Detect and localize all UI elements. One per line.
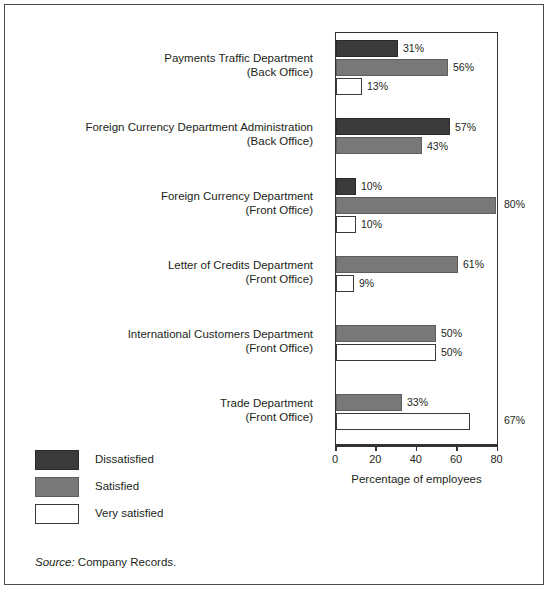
bar-row: 33% xyxy=(336,394,497,411)
category-label-line1: International Customers Department xyxy=(128,328,313,340)
x-axis-tick-label: 0 xyxy=(332,453,338,465)
source-text: Company Records. xyxy=(78,556,176,568)
bar-satisfied[interactable] xyxy=(336,256,458,273)
category-label: Foreign Currency Department(Front Office… xyxy=(5,189,313,217)
bar-verysatisfied[interactable] xyxy=(336,275,354,292)
category-label: Letter of Credits Department(Front Offic… xyxy=(5,258,313,286)
bar-dissatisfied[interactable] xyxy=(336,40,398,57)
bar-value-label: 80% xyxy=(504,199,525,210)
category-label: International Customers Department(Front… xyxy=(5,327,313,355)
bar-satisfied[interactable] xyxy=(336,394,402,411)
bar-value-label: 13% xyxy=(367,81,388,92)
category-label: Foreign Currency Department Administrati… xyxy=(5,120,313,148)
bar-value-label: 31% xyxy=(403,43,424,54)
category-label-line1: Trade Department xyxy=(220,397,313,409)
bar-verysatisfied[interactable] xyxy=(336,216,356,233)
bar-value-label: 50% xyxy=(441,347,462,358)
x-axis-tick xyxy=(497,445,499,451)
category-label-line2: (Back Office) xyxy=(5,134,313,148)
bar-value-label: 50% xyxy=(441,328,462,339)
bar-satisfied[interactable] xyxy=(336,59,448,76)
bar-row: 50% xyxy=(336,344,497,361)
bar-dissatisfied[interactable] xyxy=(336,178,356,195)
bar-row: 9% xyxy=(336,275,497,292)
x-axis-tick-label: 20 xyxy=(369,453,381,465)
bar-row: 10% xyxy=(336,178,497,195)
legend-swatch-satisfied xyxy=(35,477,79,497)
bar-row: 61% xyxy=(336,256,497,273)
category-label-line2: (Back Office) xyxy=(5,65,313,79)
legend-swatch-dissatisfied xyxy=(35,450,79,470)
source-note: Source: Company Records. xyxy=(35,556,176,568)
bar-value-label: 56% xyxy=(453,62,474,73)
legend-label: Very satisfied xyxy=(95,507,163,519)
legend-label: Satisfied xyxy=(95,480,139,492)
x-axis-tick xyxy=(416,445,418,451)
category-label-line1: Foreign Currency Department xyxy=(161,190,313,202)
bar-row: 10% xyxy=(336,216,497,233)
x-axis-tick xyxy=(375,445,377,451)
x-axis-tick xyxy=(335,445,337,451)
bar-row: 31% xyxy=(336,40,497,57)
bar-verysatisfied[interactable] xyxy=(336,78,362,95)
bar-satisfied[interactable] xyxy=(336,197,496,214)
bar-verysatisfied[interactable] xyxy=(336,344,436,361)
plot-area: 31%56%13%57%43%10%10%61%9%50%50%33% xyxy=(335,32,498,445)
x-axis-title: Percentage of employees xyxy=(335,473,498,485)
x-axis-tick-label: 60 xyxy=(450,453,462,465)
bar-value-label: 61% xyxy=(463,259,484,270)
category-label-line2: (Front Office) xyxy=(5,341,313,355)
category-label-line2: (Front Office) xyxy=(5,410,313,424)
bar-satisfied[interactable] xyxy=(336,325,436,342)
bar-row xyxy=(336,197,497,214)
bar-row xyxy=(336,413,497,430)
category-label-line2: (Front Office) xyxy=(5,272,313,286)
figure-frame: Payments Traffic Department(Back Office)… xyxy=(4,4,544,585)
bar-value-label: 9% xyxy=(359,278,374,289)
x-axis-tick xyxy=(456,445,458,451)
category-label: Trade Department(Front Office) xyxy=(5,396,313,424)
x-axis-tick-label: 40 xyxy=(410,453,422,465)
bar-row: 56% xyxy=(336,59,497,76)
source-prefix: Source: xyxy=(35,556,75,568)
bar-row: 50% xyxy=(336,325,497,342)
bar-dissatisfied[interactable] xyxy=(336,118,450,135)
x-axis: 020406080 xyxy=(335,445,498,447)
bar-row: 43% xyxy=(336,137,497,154)
category-label-line1: Payments Traffic Department xyxy=(164,52,313,64)
x-axis-tick-label: 80 xyxy=(490,453,502,465)
bar-row: 13% xyxy=(336,78,497,95)
category-label-line2: (Front Office) xyxy=(5,203,313,217)
bar-value-label: 10% xyxy=(361,181,382,192)
bar-row: 57% xyxy=(336,118,497,135)
bar-satisfied[interactable] xyxy=(336,137,422,154)
bar-value-label: 67% xyxy=(504,415,525,426)
bar-value-label: 57% xyxy=(455,122,476,133)
legend-swatch-verysatisfied xyxy=(35,504,79,524)
bar-value-label: 10% xyxy=(361,219,382,230)
bar-verysatisfied[interactable] xyxy=(336,413,470,430)
bar-value-label: 33% xyxy=(407,397,428,408)
bar-value-label: 43% xyxy=(427,141,448,152)
category-label-line1: Letter of Credits Department xyxy=(168,259,313,271)
legend-label: Dissatisfied xyxy=(95,453,154,465)
category-label-line1: Foreign Currency Department Administrati… xyxy=(85,121,313,133)
category-label: Payments Traffic Department(Back Office) xyxy=(5,51,313,79)
